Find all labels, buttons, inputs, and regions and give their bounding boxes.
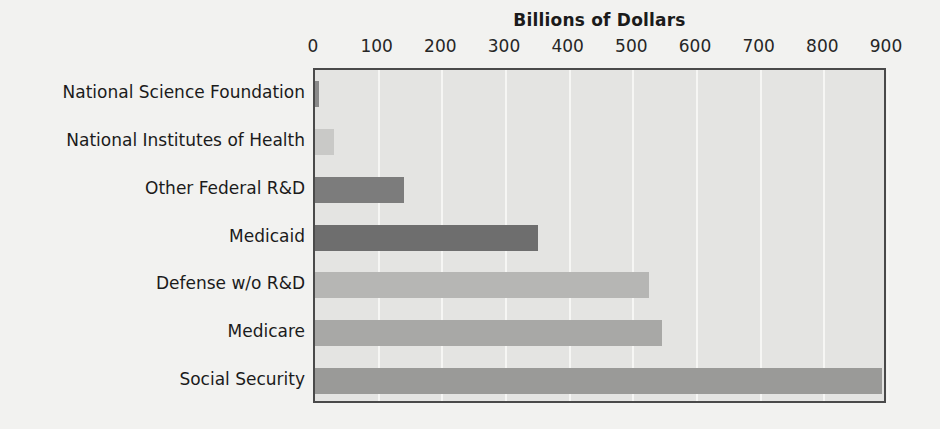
gridline-500 (632, 70, 634, 401)
bar (315, 368, 882, 394)
y-tick-label: Medicaid (229, 226, 305, 246)
x-tick-label-0: 0 (308, 36, 319, 56)
bar (315, 177, 404, 203)
gridline-600 (696, 70, 698, 401)
x-tick-label-900: 900 (870, 36, 902, 56)
bar-chart: Billions of Dollars 01002003004005006007… (0, 0, 940, 429)
y-tick-label: Other Federal R&D (145, 178, 305, 198)
x-tick-label-500: 500 (615, 36, 647, 56)
chart-title: Billions of Dollars (313, 10, 886, 30)
x-tick-label-300: 300 (488, 36, 520, 56)
x-tick-label-200: 200 (424, 36, 456, 56)
y-tick-label: Defense w/o R&D (156, 273, 305, 293)
y-tick-label: Medicare (228, 321, 305, 341)
bar (315, 129, 334, 155)
plot-inner (315, 70, 884, 401)
gridline-900 (887, 70, 889, 401)
gridline-400 (569, 70, 571, 401)
bar (315, 272, 649, 298)
x-tick-label-600: 600 (679, 36, 711, 56)
gridline-800 (823, 70, 825, 401)
x-tick-label-700: 700 (742, 36, 774, 56)
gridline-700 (760, 70, 762, 401)
x-axis-tick-labels: 0100200300400500600700800900 (313, 36, 886, 62)
bar (315, 81, 319, 107)
y-tick-label: National Institutes of Health (66, 130, 305, 150)
y-tick-label: Social Security (179, 369, 305, 389)
y-tick-label: National Science Foundation (63, 82, 305, 102)
x-tick-label-800: 800 (806, 36, 838, 56)
y-axis-category-labels: National Science FoundationNational Inst… (0, 68, 305, 403)
plot-area (313, 68, 886, 403)
bar (315, 225, 538, 251)
x-tick-label-100: 100 (360, 36, 392, 56)
x-tick-label-400: 400 (551, 36, 583, 56)
bar (315, 320, 662, 346)
